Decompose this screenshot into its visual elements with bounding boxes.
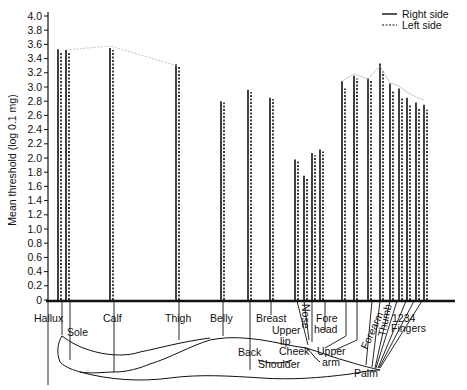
y-tick-label: 1.0: [27, 223, 42, 235]
y-tick-label: 2.8: [27, 95, 42, 107]
y-tick-label: 2.6: [27, 109, 42, 121]
y-tick-label: 1.4: [27, 194, 42, 206]
y-tick-label: 0.4: [27, 265, 42, 277]
y-tick-label: 2.2: [27, 137, 42, 149]
sensory-threshold-chart: 00.20.40.60.81.01.21.41.61.82.02.22.42.6…: [0, 0, 467, 390]
bars: [58, 48, 427, 300]
y-tick-label: 0.8: [27, 237, 42, 249]
label-calf: Calf: [103, 312, 122, 324]
y-axis: 00.20.40.60.81.01.21.41.61.82.02.22.42.6…: [6, 10, 48, 306]
y-tick-label: 0.6: [27, 251, 42, 263]
category-labels: Hallux Sole Calf Thigh Belly Breast Uppe…: [34, 303, 426, 379]
y-axis-label: Mean threshold (log 0.1 mg): [6, 94, 18, 225]
leg-connector: [66, 46, 178, 66]
legend: Right side Left side: [382, 8, 449, 31]
label-upper-arm-2: arm: [322, 356, 340, 368]
label-hallux: Hallux: [34, 312, 64, 324]
y-tick-label: 3.2: [27, 66, 42, 78]
label-cheek: Cheek: [279, 345, 310, 357]
label-belly: Belly: [210, 312, 234, 324]
label-fore-2: head: [314, 323, 338, 335]
label-shoulder: Shoulder: [258, 358, 301, 370]
label-thigh: Thigh: [165, 312, 191, 324]
y-tick-label: 3.4: [27, 52, 42, 64]
y-tick-label: 0: [36, 294, 42, 306]
y-tick-label: 3.6: [27, 38, 42, 50]
y-tick-label: 3.8: [27, 24, 42, 36]
y-tick-label: 1.2: [27, 208, 42, 220]
y-tick-label: 0.2: [27, 279, 42, 291]
y-tick-label: 2.4: [27, 123, 42, 135]
y-tick-label: 1.8: [27, 166, 42, 178]
y-tick-label: 4.0: [27, 10, 42, 22]
legend-left-side: Left side: [402, 19, 442, 31]
y-tick-label: 3.0: [27, 81, 42, 93]
y-tick-label: 2.0: [27, 152, 42, 164]
y-tick-label: 1.6: [27, 180, 42, 192]
